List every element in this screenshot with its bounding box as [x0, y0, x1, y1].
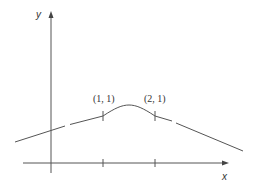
x-axis-arrow-icon — [222, 161, 229, 166]
x-axis-label: x — [221, 171, 228, 182]
y-axis: y — [35, 9, 54, 173]
x-axis: x — [23, 159, 229, 182]
point-label-1: (1, 1) — [93, 93, 115, 105]
function-graph: y x (1, 1) (2, 1) — [0, 0, 253, 187]
point-label-2: (2, 1) — [144, 93, 166, 105]
function-curve — [15, 105, 243, 151]
y-axis-label: y — [35, 9, 42, 20]
y-axis-arrow-icon — [49, 11, 54, 18]
